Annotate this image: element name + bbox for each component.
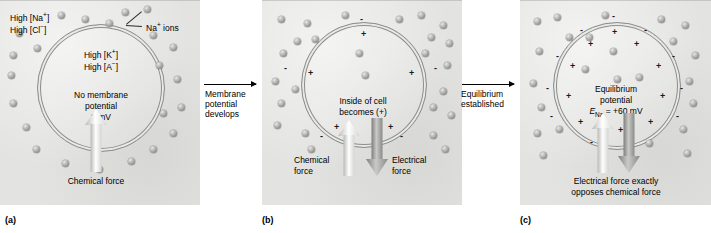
transition-arrow-b-to-c (462, 84, 514, 85)
ion (686, 78, 693, 85)
cell-membrane-b (301, 22, 427, 148)
ion (274, 122, 281, 129)
ion (58, 12, 65, 19)
chemical-force-label-b-line2: force (294, 166, 313, 177)
ion (362, 72, 369, 79)
panel-b: - - - - - + + + + + Inside of cell becom… (262, 0, 462, 205)
charge-positive-inside: + (634, 40, 639, 49)
ion (430, 104, 437, 111)
ion (692, 52, 699, 59)
state-text-line1: Inside of cell (308, 96, 418, 107)
charge-negative-outside: - (680, 84, 683, 93)
ion (278, 16, 285, 23)
transition-label-b-to-c-line2: established (461, 99, 504, 109)
inside-label-a: High [A−] (58, 59, 144, 72)
ion (680, 126, 687, 133)
equilibrium-potential-value: ENa = +60 mV (561, 106, 671, 120)
ion (448, 112, 455, 119)
chemical-force-arrow-a (85, 109, 107, 172)
state-text-line1: No membrane (46, 90, 156, 101)
state-text-line2: becomes (+) (308, 107, 418, 118)
charge-positive-inside: + (612, 28, 617, 37)
charge-positive-inside: + (656, 62, 661, 71)
ion (440, 88, 447, 95)
ion (308, 146, 315, 153)
transition-arrow-a-to-b (204, 84, 256, 85)
panel-a-top-rule (0, 0, 200, 1)
ion (294, 38, 301, 45)
charge-negative-outside: - (550, 112, 553, 121)
ion (538, 104, 545, 111)
charge-negative-outside: - (434, 64, 437, 73)
charge-negative-outside: - (284, 64, 287, 73)
membrane-potential-figure: High [Na+] High [Cl−] Na+ ions High [K+]… (0, 0, 711, 233)
ion (446, 40, 453, 47)
transition-label-a-to-b-line3: develops (205, 109, 239, 119)
ion (566, 34, 573, 41)
charge-positive-inside: + (361, 30, 366, 39)
ion (178, 104, 185, 111)
transition-label-a-to-b-line2: potential (205, 99, 237, 109)
panel-b-top-rule (262, 0, 462, 1)
ion (150, 146, 157, 153)
charge-negative-outside: - (320, 132, 323, 141)
transition-label-a-to-b-line1: Membrane (205, 89, 246, 99)
force-balance-label-line1: Electrical force exactly (536, 176, 696, 187)
ion (428, 34, 435, 41)
ion (82, 16, 89, 23)
ion (610, 48, 617, 55)
ion (530, 80, 537, 87)
charge-negative-outside: - (644, 26, 647, 35)
callout-leader-line (126, 25, 142, 27)
ion (430, 132, 437, 139)
chemical-force-arrow-b (338, 120, 360, 176)
ion (272, 78, 279, 85)
charge-negative-outside: - (360, 15, 363, 24)
charge-negative-outside: - (556, 52, 559, 61)
na-ions-callout: Na+ ions (146, 20, 179, 33)
chemical-force-label-a: Chemical force (36, 176, 156, 187)
transition-label-b-to-c-line1: Equilibrium (461, 89, 503, 99)
panel-label-c: (c) (520, 215, 531, 225)
ion (170, 44, 177, 51)
ion (534, 130, 541, 137)
ion (614, 76, 621, 83)
panel-label-b: (b) (262, 215, 274, 225)
ion (302, 130, 309, 137)
ion (278, 100, 285, 107)
ion (144, 6, 151, 13)
electrical-force-label-b-line1: Electrical (392, 155, 426, 166)
ion (540, 152, 547, 159)
chemical-force-arrow-c (592, 113, 614, 173)
state-text-line1: Equilibrium (561, 84, 671, 95)
ion (106, 20, 113, 27)
ion (10, 52, 17, 59)
ion (440, 22, 447, 29)
ion (536, 48, 543, 55)
ion (33, 146, 40, 153)
electrical-force-label-b-line2: force (392, 166, 411, 177)
charge-positive-inside: + (409, 69, 414, 78)
ion (682, 22, 689, 29)
charge-negative-outside: - (612, 12, 615, 21)
ion (534, 18, 541, 25)
ion (582, 66, 589, 73)
ion (280, 50, 287, 57)
charge-positive-inside: + (588, 40, 593, 49)
ion (658, 16, 665, 23)
panel-a: High [Na+] High [Cl−] Na+ ions High [K+]… (0, 0, 200, 205)
charge-negative-outside: - (400, 132, 403, 141)
ion (422, 50, 429, 57)
outside-label-cl: High [Cl−] (10, 22, 46, 35)
charge-negative-outside: - (672, 52, 675, 61)
ion (10, 100, 17, 107)
charge-negative-outside: - (546, 84, 549, 93)
panel-c: - - - - - - - - - - + + + + + + + + + + … (520, 0, 711, 205)
charge-positive-inside: + (570, 62, 575, 71)
ion (646, 140, 653, 147)
panel-c-top-rule (520, 0, 711, 1)
ion (128, 158, 135, 165)
ion (23, 124, 30, 131)
ion (356, 50, 363, 57)
ion (396, 16, 403, 23)
